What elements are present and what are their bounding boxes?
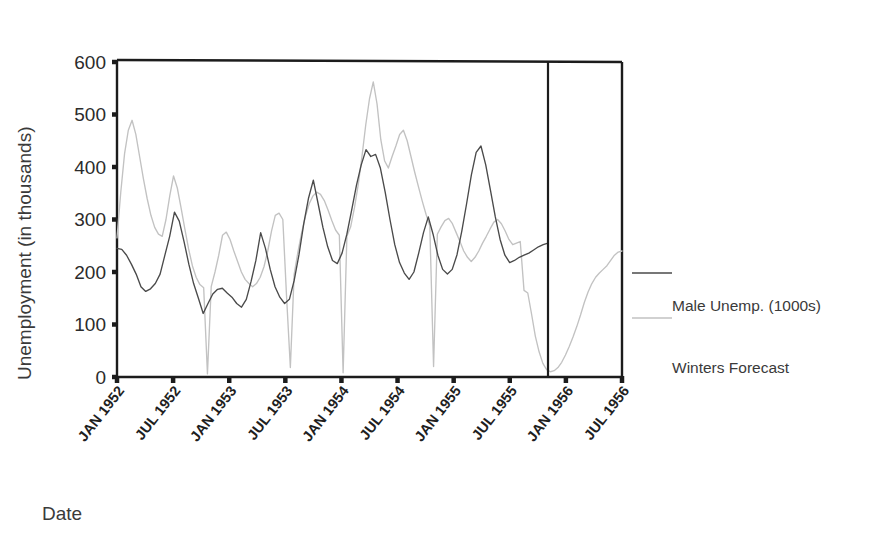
y-tick-label: 300 xyxy=(74,209,106,230)
series-line-winters-forecast xyxy=(117,82,622,374)
x-tick-label: JAN 1954 xyxy=(299,383,352,444)
x-tick-label: JAN 1952 xyxy=(75,383,128,444)
plot-frame xyxy=(117,60,622,377)
y-tick-label: 400 xyxy=(74,157,106,178)
x-tick-label: JAN 1955 xyxy=(411,383,464,444)
chart-container: 600 500 400 300 200 100 0 Unemployment (… xyxy=(0,0,889,548)
legend-label-male-unemp: Male Unemp. (1000s) xyxy=(672,297,821,314)
plot-top-border xyxy=(117,60,622,62)
y-tick-label: 0 xyxy=(95,367,106,388)
y-tick-label: 100 xyxy=(74,314,106,335)
plot-series xyxy=(117,82,622,374)
y-tick-label: 200 xyxy=(74,262,106,283)
x-tick-label: JUL 1956 xyxy=(581,383,633,443)
x-tick-label: JAN 1953 xyxy=(187,383,240,444)
x-tick-labels: JAN 1952JUL 1952JAN 1953JUL 1953JAN 1954… xyxy=(75,383,633,444)
y-tick-label: 500 xyxy=(74,104,106,125)
y-tick-labels: 600 500 400 300 200 100 0 xyxy=(74,52,106,388)
x-tick-label: JAN 1956 xyxy=(523,383,576,444)
legend-label-winters-forecast: Winters Forecast xyxy=(672,359,790,376)
x-axis-title: Date xyxy=(42,503,82,524)
chart-legend: Male Unemp. (1000s) Winters Forecast xyxy=(632,273,821,376)
series-line-male-unemp xyxy=(117,146,548,313)
y-tick-label: 600 xyxy=(74,52,106,73)
x-tick-label: JUL 1952 xyxy=(132,383,184,443)
x-tick-label: JUL 1954 xyxy=(356,383,408,443)
x-tick-label: JUL 1955 xyxy=(468,383,520,443)
x-tick-label: JUL 1953 xyxy=(244,383,296,443)
unemployment-line-chart: 600 500 400 300 200 100 0 Unemployment (… xyxy=(0,0,889,548)
y-axis-title: Unemployment (in thousands) xyxy=(14,127,35,380)
